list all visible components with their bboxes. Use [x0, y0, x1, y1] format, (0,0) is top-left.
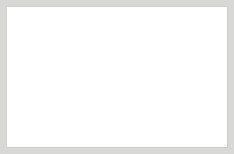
legend-item-past-due — [19, 28, 26, 32]
chart-card — [7, 7, 227, 147]
legend-swatch-past-due — [19, 28, 23, 32]
legend-swatch-foreclosure — [19, 35, 23, 39]
plot-area — [27, 23, 219, 137]
legend-item-foreclosure — [19, 35, 26, 39]
